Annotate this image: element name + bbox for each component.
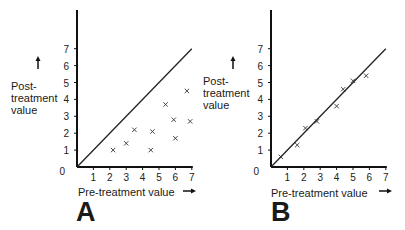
identity-line <box>271 49 386 167</box>
x-tick-label: 3 <box>317 172 323 183</box>
data-point-x-marker <box>185 89 189 93</box>
data-point-x-marker <box>124 141 128 145</box>
y-label-line-2: treatment <box>203 87 249 99</box>
x-tick-label: 2 <box>107 172 113 183</box>
y-label-line-1: Post- <box>11 80 57 92</box>
data-point-x-marker <box>295 143 299 147</box>
x-tick-label: 3 <box>123 172 129 183</box>
x-tick-label: 6 <box>367 172 373 183</box>
x-tick-label: 6 <box>173 172 179 183</box>
data-point-x-marker <box>149 148 153 152</box>
y-tick-label: 5 <box>63 78 69 89</box>
panel-letter-b: B <box>271 197 291 228</box>
data-point-x-marker <box>111 148 115 152</box>
data-point-x-marker <box>163 102 167 106</box>
data-point-x-marker <box>334 104 338 108</box>
x-tick-label: 2 <box>301 172 307 183</box>
data-point-x-marker <box>188 119 192 123</box>
y-tick-label: 7 <box>257 44 263 55</box>
panel-b: 012345671234567 Post- treatment value Pr… <box>200 0 405 230</box>
x-tick-label: 5 <box>350 172 356 183</box>
y-tick-label: 2 <box>63 128 69 139</box>
y-tick-label: 1 <box>257 145 263 156</box>
y-label-line-2: treatment <box>11 92 57 104</box>
panel-a: 012345671234567 Post- treatment value Pr… <box>0 0 200 230</box>
y-tick-label: 1 <box>63 145 69 156</box>
x-tick-label: 1 <box>285 172 291 183</box>
y-tick-label: 4 <box>257 94 263 105</box>
x-tick-label: 4 <box>140 172 146 183</box>
data-point-x-marker <box>341 87 345 91</box>
y-tick-label: 2 <box>257 128 263 139</box>
y-tick-label: 7 <box>63 44 69 55</box>
arrow-right-icon <box>183 189 196 194</box>
data-point-x-marker <box>279 155 283 159</box>
y-label-line-3: value <box>203 99 249 111</box>
arrow-up-icon <box>36 56 41 69</box>
y-label-line-3: value <box>11 104 57 116</box>
y-tick-label: 6 <box>63 61 69 72</box>
data-point-x-marker <box>132 128 136 132</box>
data-point-x-marker <box>364 74 368 78</box>
y-tick-label: 6 <box>257 61 263 72</box>
y-tick-label: 0 <box>253 166 259 177</box>
y-tick-label: 5 <box>257 78 263 89</box>
y-tick-label: 0 <box>59 166 65 177</box>
panel-letter-a: A <box>76 197 96 228</box>
data-point-x-marker <box>303 126 307 130</box>
y-tick-label: 4 <box>63 94 69 105</box>
data-point-x-marker <box>150 129 154 133</box>
x-tick-label: 5 <box>156 172 162 183</box>
x-tick-label: 1 <box>91 172 97 183</box>
x-tick-label: 7 <box>383 172 389 183</box>
x-tick-label: 4 <box>334 172 340 183</box>
data-point-x-marker <box>173 136 177 140</box>
y-tick-label: 3 <box>63 111 69 122</box>
x-tick-label: 7 <box>189 172 195 183</box>
y-label-line-1: Post- <box>203 75 249 87</box>
identity-line <box>77 49 192 167</box>
y-axis-label-b: Post- treatment value <box>203 75 249 111</box>
y-axis-label-a: Post- treatment value <box>11 80 57 116</box>
y-tick-label: 3 <box>257 111 263 122</box>
data-point-x-marker <box>172 117 176 121</box>
arrow-up-icon <box>231 56 236 69</box>
arrow-right-icon <box>379 189 392 194</box>
